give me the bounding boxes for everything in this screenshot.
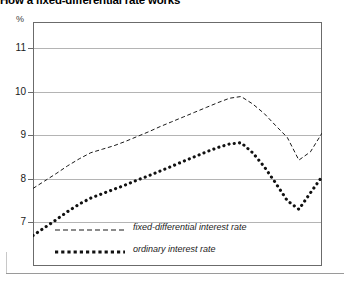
series-line	[33, 97, 322, 189]
legend: fixed-differential interest rate ordinar…	[55, 221, 285, 265]
page-title: How a fixed-differential rate works	[0, 0, 350, 8]
y-axis-tick-label: 9	[4, 129, 26, 140]
dotted-line-icon	[55, 249, 125, 255]
y-axis-unit-label: %	[16, 14, 24, 24]
figure-baseline-rule	[6, 273, 344, 274]
legend-item-label: ordinary interest rate	[133, 244, 216, 254]
legend-item-fixed-differential[interactable]: fixed-differential interest rate	[55, 221, 285, 243]
y-axis-tick-label: 10	[4, 86, 26, 97]
y-axis-tick-label: 11	[4, 42, 26, 53]
legend-item-label: fixed-differential interest rate	[133, 222, 247, 232]
legend-item-ordinary[interactable]: ordinary interest rate	[55, 243, 285, 265]
y-axis-tick-label: 8	[4, 173, 26, 184]
y-axis-tick-label: 7	[4, 216, 26, 227]
figure-left-rule	[6, 252, 7, 274]
dashed-line-icon	[55, 227, 125, 233]
